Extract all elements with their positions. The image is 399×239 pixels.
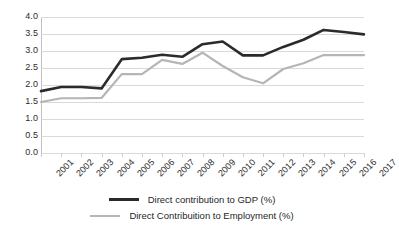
x-tick-mark bbox=[182, 153, 183, 157]
x-tick-mark bbox=[162, 153, 163, 157]
x-tick-mark bbox=[223, 153, 224, 157]
x-tick-mark bbox=[203, 153, 204, 157]
x-tick-mark bbox=[303, 153, 304, 157]
x-tick-mark bbox=[41, 153, 42, 157]
series-line-employment bbox=[41, 53, 364, 102]
x-tick-mark bbox=[243, 153, 244, 157]
legend-label-employment: Direct Contribuition to Employment (%) bbox=[129, 210, 293, 221]
x-tick-mark bbox=[81, 153, 82, 157]
x-tick-mark bbox=[142, 153, 143, 157]
x-tick-mark bbox=[122, 153, 123, 157]
series-line-gdp bbox=[41, 30, 364, 91]
x-tick-mark bbox=[364, 153, 365, 157]
x-tick-mark bbox=[324, 153, 325, 157]
x-tick-mark bbox=[61, 153, 62, 157]
x-tick-mark bbox=[102, 153, 103, 157]
legend-swatch-gdp bbox=[109, 198, 139, 201]
legend-item-employment: Direct Contribuition to Employment (%) bbox=[90, 210, 293, 221]
x-tick-mark bbox=[344, 153, 345, 157]
legend-item-gdp: Direct contribution to GDP (%) bbox=[109, 194, 276, 205]
x-tick-mark bbox=[263, 153, 264, 157]
legend-label-gdp: Direct contribution to GDP (%) bbox=[148, 194, 276, 205]
chart-legend: Direct contribution to GDP (%) Direct Co… bbox=[0, 194, 384, 221]
x-tick-mark bbox=[283, 153, 284, 157]
legend-swatch-employment bbox=[90, 215, 120, 217]
